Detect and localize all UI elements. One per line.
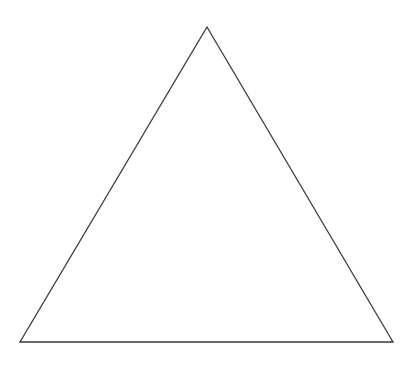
drawing-canvas [0,0,417,376]
canvas-background [0,0,417,376]
figure-svg [0,0,417,376]
